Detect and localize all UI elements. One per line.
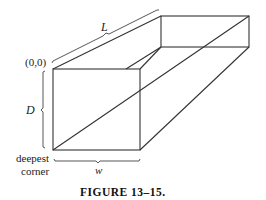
- box-diagram: L D w (0,0) deepest corner FIGURE 13–15.: [0, 0, 266, 200]
- edge-bottom-right: [140, 47, 249, 150]
- width-brace: [54, 159, 140, 163]
- front-face: [53, 69, 140, 150]
- deepest-corner-label-1: deepest: [16, 152, 49, 164]
- width-label: w: [95, 164, 103, 176]
- length-label: L: [100, 20, 108, 34]
- length-brace: [52, 10, 159, 63]
- depth-label: D: [25, 103, 35, 117]
- back-face: [161, 16, 249, 47]
- figure-caption: FIGURE 13–15.: [80, 186, 166, 198]
- deepest-corner-label-2: corner: [21, 165, 49, 177]
- depth-brace: [41, 71, 45, 148]
- origin-label: (0,0): [25, 56, 46, 69]
- diagonal: [53, 16, 249, 150]
